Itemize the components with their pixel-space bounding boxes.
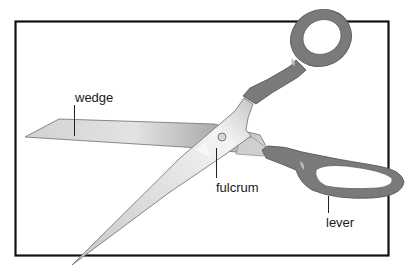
pivot-screw — [218, 133, 226, 141]
lower-handle — [262, 146, 404, 198]
upper-handle — [243, 0, 361, 104]
scissors-diagram — [0, 0, 411, 276]
fulcrum-label: fulcrum — [216, 181, 259, 194]
lever-label: lever — [326, 216, 354, 229]
wedge-label: wedge — [75, 91, 113, 104]
